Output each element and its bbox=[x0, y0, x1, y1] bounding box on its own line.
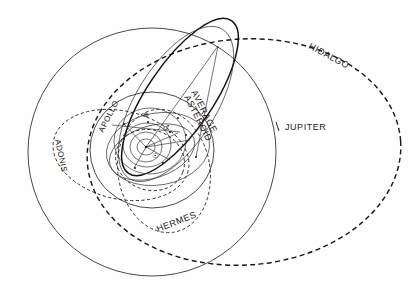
orbit-hidalgo bbox=[79, 28, 408, 275]
node-dot-4 bbox=[134, 167, 136, 169]
earth-dot bbox=[147, 121, 149, 123]
label-hermes: HERMES bbox=[155, 210, 198, 234]
orbit-inner-dashed bbox=[107, 120, 193, 200]
label-hidalgo: HIDALGO bbox=[307, 41, 351, 71]
node-dot-5 bbox=[162, 162, 164, 164]
node-dot-2 bbox=[185, 134, 187, 136]
node-dot-1 bbox=[123, 123, 125, 125]
earth-symbol-icon: ⊕ bbox=[143, 111, 149, 119]
sun-dot bbox=[145, 146, 147, 148]
orbit-diagram-canvas: ⊕ ♂ ☉ HIDALGO JUPITER AVERAGE ASTEROID A… bbox=[0, 0, 417, 297]
orbit-diagram: ⊕ ♂ ☉ HIDALGO JUPITER AVERAGE ASTEROID A… bbox=[0, 0, 417, 297]
jupiter-tick-icon bbox=[276, 122, 279, 131]
line-sun-radius-5 bbox=[134, 147, 146, 168]
node-dot-3 bbox=[177, 117, 179, 119]
label-apollo: APOLLO bbox=[97, 99, 121, 134]
mars-symbol-icon: ♂ bbox=[163, 124, 169, 132]
node-dot-6 bbox=[195, 156, 197, 158]
sun-symbol-icon: ☉ bbox=[152, 152, 158, 160]
label-adonis: ADONIS bbox=[53, 139, 69, 174]
label-jupiter: JUPITER bbox=[285, 122, 326, 132]
